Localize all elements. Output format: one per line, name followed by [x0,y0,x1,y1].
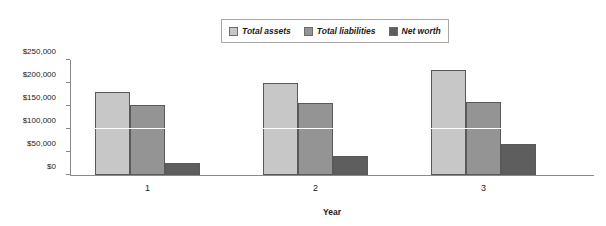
legend-entry[interactable]: Total assets [229,27,291,36]
bar[interactable] [165,163,200,175]
legend-swatch-total-assets [229,27,238,36]
y-tick-mark [66,59,70,60]
legend-entry[interactable]: Net worth [389,27,441,36]
x-tick-label: 1 [145,184,150,193]
y-axis-line [70,60,71,175]
legend-label: Total assets [242,27,291,36]
x-tick-label: 3 [481,184,486,193]
y-tick-label: $250,000 [23,48,56,56]
x-axis-line [70,175,594,176]
legend-label: Net worth [402,27,441,36]
bar[interactable] [431,70,466,175]
bar[interactable] [501,144,536,175]
bar-chart-figure: Total assetsTotal liabilitiesNet worth $… [0,0,606,226]
y-tick-label: $150,000 [23,94,56,102]
y-tick-mark [66,105,70,106]
y-tick-mark [66,128,70,129]
y-tick-label: $0 [47,163,56,171]
bar[interactable] [298,103,333,175]
legend-entry[interactable]: Total liabilities [304,27,376,36]
bar-group [263,60,368,175]
y-tick-mark [66,174,70,175]
x-axis-title: Year [70,208,594,217]
x-tick-label: 2 [313,184,318,193]
legend-swatch-total-liabilities [304,27,313,36]
chart-legend: Total assetsTotal liabilitiesNet worth [221,19,449,43]
bar[interactable] [95,92,130,175]
y-tick-label: $50,000 [27,140,56,148]
bar[interactable] [263,83,298,175]
bar-group [431,60,536,175]
plot-area: $0$50,000$100,000$150,000$200,000$250,00… [70,60,594,175]
bar[interactable] [466,102,501,175]
legend-label: Total liabilities [317,27,376,36]
legend-swatch-net-worth [389,27,398,36]
y-tick-mark [66,82,70,83]
y-tick-label: $100,000 [23,117,56,125]
bar[interactable] [130,105,165,175]
bar-group [95,60,200,175]
y-tick-mark [66,151,70,152]
bar[interactable] [333,156,368,175]
y-tick-label: $200,000 [23,71,56,79]
